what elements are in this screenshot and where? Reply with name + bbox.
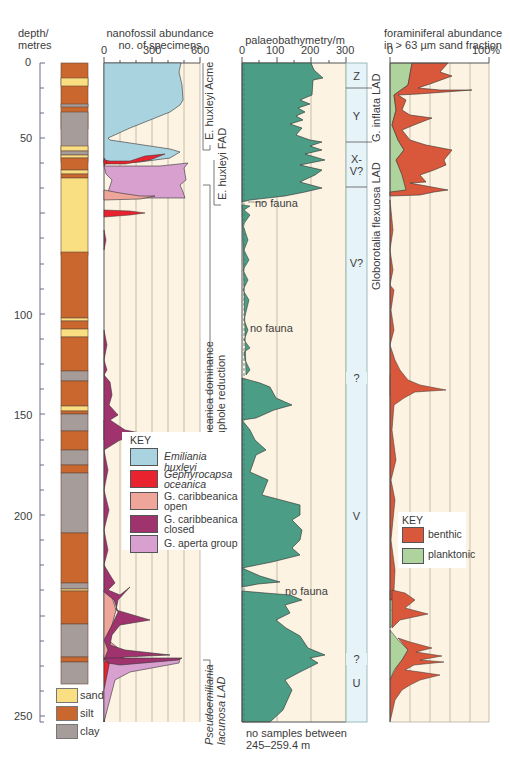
legend-label-planktonic: planktonic — [428, 549, 475, 560]
depth-tick-250: 250 — [14, 710, 32, 722]
nanofossil-panel — [104, 57, 200, 722]
event-g-inflata-lad: G. inflata LAD — [370, 74, 382, 142]
zone-x-v: X- V? — [346, 153, 367, 177]
nanofossil-tick-300: 300 — [143, 44, 161, 56]
legend-swatch-planktonic — [402, 548, 424, 564]
palaeobathymetry-panel — [242, 57, 346, 722]
legend-swatch-benthic — [402, 527, 424, 543]
event-e-huxleyi-fad: E. huxleyi FAD — [216, 128, 228, 200]
depth-axis — [40, 63, 45, 722]
no-fauna-label-3: no fauna — [285, 585, 328, 597]
legend-swatch-aperta — [130, 535, 158, 553]
palaeo-tick-100: 100 — [266, 44, 284, 56]
palaeobathymetry-title: palaeobathymetry/m — [240, 34, 350, 46]
zone-y: Y — [346, 110, 367, 122]
legend-label-clay: clay — [80, 725, 100, 737]
depth-tick-0: 0 — [25, 56, 31, 68]
legend-swatch-sand — [56, 688, 78, 703]
palaeo-tick-200: 200 — [301, 44, 319, 56]
legend-swatch-clay — [56, 724, 78, 739]
lithology-legend: sand silt clay — [55, 688, 115, 758]
zone-boundary-query-1: ? — [346, 372, 367, 384]
zone-v-query: V? — [346, 257, 367, 269]
nanofossil-tick-600: 600 — [191, 44, 209, 56]
no-fauna-label-1: no fauna — [255, 197, 298, 209]
zone-u: U — [346, 677, 367, 689]
legend-label-gephyrocapsa: Gephyrocapsa oceanica — [164, 468, 232, 490]
event-e-huxleyi-acme: E. huxleyi Acme — [203, 62, 215, 140]
zone-z: Z — [346, 70, 367, 82]
nanofossil-legend: KEY Emiliania huxleyi Gephyrocapsa ocean… — [122, 432, 240, 550]
zone-boundary-query-2: ? — [346, 653, 367, 665]
depth-tick-100: 100 — [14, 309, 32, 321]
depth-tick-200: 200 — [14, 510, 32, 522]
legend-swatch-caribbeanica-closed — [130, 515, 158, 533]
legend-swatch-silt — [56, 706, 78, 721]
event-pseudoemiliania-lad: Pseudoemiliania lacunosa LAD — [203, 664, 227, 745]
legend-label-aperta: G. aperta group — [164, 538, 238, 549]
legend-title: KEY — [130, 435, 151, 446]
foram-tick-100: 100% — [472, 44, 500, 56]
foram-legend-title: KEY — [402, 515, 423, 526]
foraminifera-legend: KEY benthic planktonic — [398, 512, 466, 568]
palaeo-tick-0: 0 — [239, 44, 245, 56]
depth-tick-50: 50 — [20, 132, 32, 144]
legend-swatch-caribbeanica-open — [130, 492, 158, 510]
legend-swatch-gephyrocapsa — [130, 470, 158, 488]
no-samples-footnote: no samples between 245–259.4 m — [246, 727, 347, 751]
depth-tick-150: 150 — [14, 409, 32, 421]
depth-axis-title: depth/ metres — [18, 27, 52, 51]
nanofossil-tick-0: 0 — [101, 44, 107, 56]
event-globorotalia-flexuosa-lad: Globorotalia flexuosa LAD — [370, 162, 382, 290]
foraminifera-panel — [390, 57, 489, 722]
foram-tick-0: 0 — [387, 44, 393, 56]
palaeo-tick-300: 300 — [336, 44, 354, 56]
legend-label-silt: silt — [80, 707, 93, 719]
legend-label-caribbeanica-closed: G. caribbeanica closed — [164, 514, 238, 534]
zone-v: V — [346, 510, 367, 522]
legend-swatch-emiliania — [130, 448, 158, 466]
no-fauna-label-2: no fauna — [250, 322, 293, 334]
legend-label-caribbeanica-open: G. caribbeanica open — [164, 491, 238, 511]
legend-label-benthic: benthic — [428, 529, 462, 540]
lithology-column — [61, 63, 88, 684]
chart-canvas — [0, 0, 510, 762]
legend-label-sand: sand — [80, 689, 104, 701]
